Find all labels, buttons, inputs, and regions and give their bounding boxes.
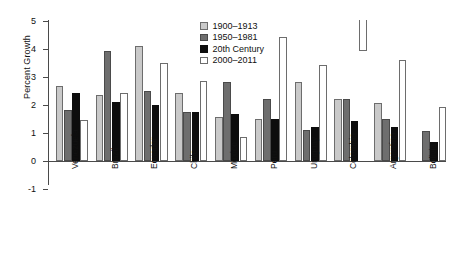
- legend-label: 20th Century: [213, 44, 265, 54]
- y-tick-label: 5: [31, 16, 36, 26]
- legend-item: 20th Century: [200, 43, 264, 55]
- y-tick-label: -1: [28, 184, 36, 194]
- bar-group: Brazil: [96, 20, 128, 161]
- legend-item: 1950–1981: [200, 32, 264, 44]
- x-axis-label: Venezuela: [70, 129, 80, 169]
- bar: [200, 81, 208, 161]
- x-axis-label: Brazil: [110, 148, 120, 169]
- bar-chart: Percent Growth -1012345 VenezuelaBrazilE…: [0, 0, 460, 260]
- y-tick-label: 3: [31, 72, 36, 82]
- y-tick-label: 2: [31, 100, 36, 110]
- x-axis-label: Bolivia: [428, 144, 438, 169]
- x-axis-label: Colombia: [348, 133, 358, 169]
- bar-group: Uruguay: [295, 20, 327, 161]
- x-axis-label: Mexico: [229, 142, 239, 169]
- bar: [279, 37, 287, 160]
- y-tick: -1: [43, 189, 48, 190]
- bar: [56, 86, 64, 160]
- y-tick-label: 4: [31, 44, 36, 54]
- x-axis-label: Uruguay: [309, 137, 319, 169]
- legend-item: 1900–1913: [200, 20, 264, 32]
- bar: [96, 95, 104, 161]
- bar: [240, 137, 248, 161]
- bar: [374, 103, 382, 160]
- legend-swatch-icon: [200, 45, 208, 53]
- bar: [175, 93, 183, 160]
- x-axis-label: Chile: [189, 150, 199, 169]
- bar: [319, 65, 327, 160]
- bar: [104, 51, 112, 160]
- bar: [255, 119, 263, 161]
- bar: [359, 20, 367, 51]
- x-axis-label: Argentina: [388, 133, 398, 169]
- bar: [399, 60, 407, 161]
- bar: [135, 46, 143, 161]
- legend-label: 1950–1981: [213, 32, 258, 42]
- bar: [215, 117, 223, 160]
- legend-label: 2000–2011: [213, 55, 257, 65]
- bar-group: Ecuador: [135, 20, 167, 161]
- bar-group: Venezuela: [56, 20, 88, 161]
- bar: [334, 99, 342, 161]
- legend-item: 2000–2011: [200, 55, 264, 67]
- legend-swatch-icon: [200, 34, 208, 42]
- x-axis-label: Peru: [269, 151, 279, 169]
- bar-group: Bolivia: [414, 20, 446, 161]
- bar: [120, 93, 128, 160]
- legend-label: 1900–1913: [213, 21, 258, 31]
- bar: [295, 82, 303, 160]
- y-tick-label: 0: [31, 156, 36, 166]
- x-axis-label: Ecuador: [149, 137, 159, 169]
- legend-swatch-icon: [200, 57, 208, 65]
- bar: [160, 63, 168, 161]
- bar-group: Argentina: [374, 20, 406, 161]
- bar: [439, 107, 447, 160]
- bar: [80, 120, 88, 161]
- legend-swatch-icon: [200, 22, 208, 30]
- bar-group: Colombia: [334, 20, 366, 161]
- y-tick-label: 1: [31, 128, 36, 138]
- chart-legend: 1900–19131950–198120th Century2000–2011: [200, 20, 264, 66]
